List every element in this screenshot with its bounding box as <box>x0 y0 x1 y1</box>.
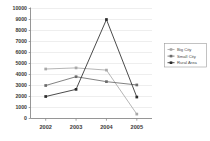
y-axis-tick-label: 5000 <box>15 60 27 66</box>
data-point-marker <box>105 18 108 21</box>
axes-group <box>31 8 153 119</box>
data-point-marker <box>44 68 47 71</box>
y-axis-tick-label: 0 <box>24 115 27 121</box>
data-point-marker <box>135 96 138 99</box>
data-series-group <box>44 18 138 115</box>
y-axis-tick-label: 10000 <box>13 5 28 11</box>
legend-marker-square <box>170 61 173 64</box>
data-point-marker <box>105 69 108 72</box>
legend-entry-label: Big City <box>177 47 192 52</box>
legend-entry-label: Small City <box>177 54 197 59</box>
y-axis-tick-label: 2000 <box>15 93 27 99</box>
data-point-marker <box>44 95 47 98</box>
data-point-marker <box>135 113 138 116</box>
line-chart: 0100020003000400050006000700080009000100… <box>0 0 210 141</box>
y-axis-tick-label: 6000 <box>15 49 27 55</box>
legend-marker-square <box>170 55 173 58</box>
series-line <box>46 68 137 114</box>
y-axis-tick-label: 1000 <box>15 104 27 110</box>
x-axis-tick-label: 2003 <box>70 124 82 130</box>
x-axis-tick-label: 2004 <box>100 124 113 130</box>
data-point-marker <box>44 84 47 87</box>
legend-marker-square <box>170 48 173 51</box>
y-axis-tick-label: 7000 <box>15 38 27 44</box>
data-point-marker <box>75 88 78 91</box>
x-axis-tick-label: 2005 <box>131 124 143 130</box>
data-point-marker <box>75 75 78 78</box>
legend-entry-label: Rural Area <box>177 60 197 65</box>
series-line <box>46 77 137 86</box>
data-point-marker <box>75 67 78 70</box>
data-point-marker <box>105 80 108 83</box>
y-axis-tick-labels: 0100020003000400050006000700080009000100… <box>13 5 28 121</box>
chart-canvas: 0100020003000400050006000700080009000100… <box>0 0 210 141</box>
y-axis-tick-label: 9000 <box>15 16 27 22</box>
x-axis-tick-label: 2002 <box>39 124 51 130</box>
data-point-marker <box>135 84 138 87</box>
y-axis-tick-label: 4000 <box>15 71 27 77</box>
gridlines-group <box>29 9 152 119</box>
x-axis-tick-labels: 2002200320042005 <box>39 124 143 130</box>
y-axis-tick-label: 3000 <box>15 82 27 88</box>
y-axis-tick-label: 8000 <box>15 27 27 33</box>
chart-legend: Big CitySmall CityRural Area <box>165 44 207 68</box>
